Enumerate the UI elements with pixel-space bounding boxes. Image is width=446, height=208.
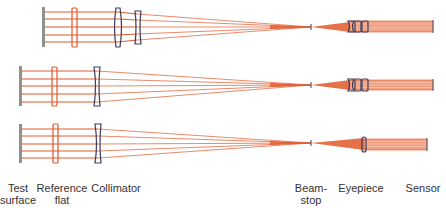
- configuration-1: [42, 7, 433, 47]
- label-beam-stop: Beam- stop: [293, 182, 329, 206]
- configuration-3: [19, 124, 427, 163]
- label-line: surface: [0, 194, 36, 206]
- label-test-surface: Test surface: [0, 182, 36, 206]
- collimated-rays: [21, 71, 97, 102]
- label-line: Reference: [34, 182, 90, 194]
- label-sensor: Sensor: [400, 182, 446, 194]
- label-line: Sensor: [400, 182, 446, 194]
- label-line: Beam-: [293, 182, 329, 194]
- label-reference-flat: Reference flat: [34, 182, 90, 206]
- label-line: stop: [293, 194, 329, 206]
- label-line: flat: [34, 194, 90, 206]
- converging-rays: [97, 71, 350, 102]
- collimated-output-beam: [364, 139, 427, 150]
- test-surface: [19, 66, 22, 106]
- label-eyepiece: Eyepiece: [335, 182, 387, 194]
- label-line: Eyepiece: [335, 182, 387, 194]
- test-surface: [42, 7, 45, 47]
- label-line: Collimator: [88, 182, 144, 194]
- test-surface: [19, 124, 22, 163]
- collimated-rays: [21, 129, 98, 158]
- optical-diagram: [0, 0, 446, 208]
- second-lens: [135, 11, 141, 44]
- label-collimator: Collimator: [88, 182, 144, 194]
- converging-rays: [98, 129, 364, 158]
- configuration-2: [19, 66, 433, 106]
- label-line: Test: [0, 182, 36, 194]
- converging-rays: [137, 14, 350, 40]
- collimated-rays: [44, 12, 137, 42]
